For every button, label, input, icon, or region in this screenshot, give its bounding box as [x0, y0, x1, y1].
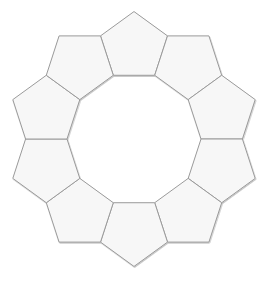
pentagon-ring-diagram	[0, 0, 266, 283]
pentagon-ring	[13, 12, 255, 267]
